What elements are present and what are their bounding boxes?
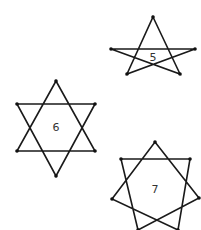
vertex-dot — [197, 196, 201, 200]
vertex-dot — [54, 79, 58, 83]
vertex-dot — [178, 72, 182, 76]
vertex-dot — [153, 140, 157, 144]
hexagram-star: 6 — [15, 79, 97, 178]
vertex-dot — [176, 228, 180, 230]
vertex-dot — [109, 47, 113, 51]
heptagram-star: 7 — [110, 140, 201, 230]
vertex-dot — [93, 149, 97, 153]
vertex-dot — [188, 157, 192, 161]
vertex-dot — [151, 15, 155, 19]
heptagram-label: 7 — [152, 183, 159, 196]
pentagram-label: 5 — [150, 51, 157, 64]
vertex-dot — [125, 72, 129, 76]
vertex-dot — [110, 197, 114, 201]
star-polygons-diagram: 5 6 7 — [0, 0, 201, 230]
vertex-dot — [15, 149, 19, 153]
vertex-dot — [15, 102, 19, 106]
vertex-dot — [54, 174, 58, 178]
pentagram-star: 5 — [109, 15, 197, 76]
vertex-dot — [119, 157, 123, 161]
vertex-dot — [93, 102, 97, 106]
vertex-dot — [193, 47, 197, 51]
hexagram-label: 6 — [53, 121, 60, 134]
pentagram-vertices — [109, 15, 197, 76]
pentagram-edges — [111, 17, 195, 74]
